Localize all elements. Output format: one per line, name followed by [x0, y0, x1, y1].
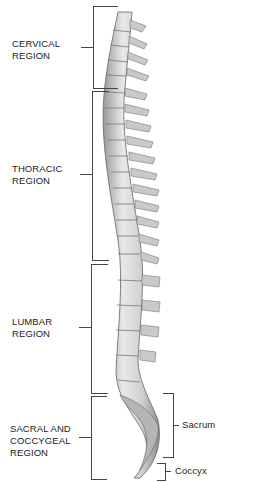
coccyx-bracket	[157, 463, 166, 481]
thoracic-bracket	[92, 91, 109, 261]
lumbar-region-label: LUMBAR REGION	[12, 316, 52, 340]
cervical-region-label: CERVICAL REGION	[12, 38, 60, 62]
sacral-bracket	[91, 396, 107, 480]
sacrum-label: Sacrum	[182, 419, 215, 431]
sacrum-bracket	[163, 393, 174, 458]
coccyx-label: Coccyx	[175, 465, 207, 477]
lumbar-bracket	[91, 264, 108, 394]
cervical-bracket	[93, 6, 118, 89]
sacral-coccygeal-region-label: SACRAL AND COCCYGEAL REGION	[10, 423, 71, 459]
spine-illustration	[0, 0, 263, 482]
thoracic-region-label: THORACIC REGION	[12, 163, 62, 187]
